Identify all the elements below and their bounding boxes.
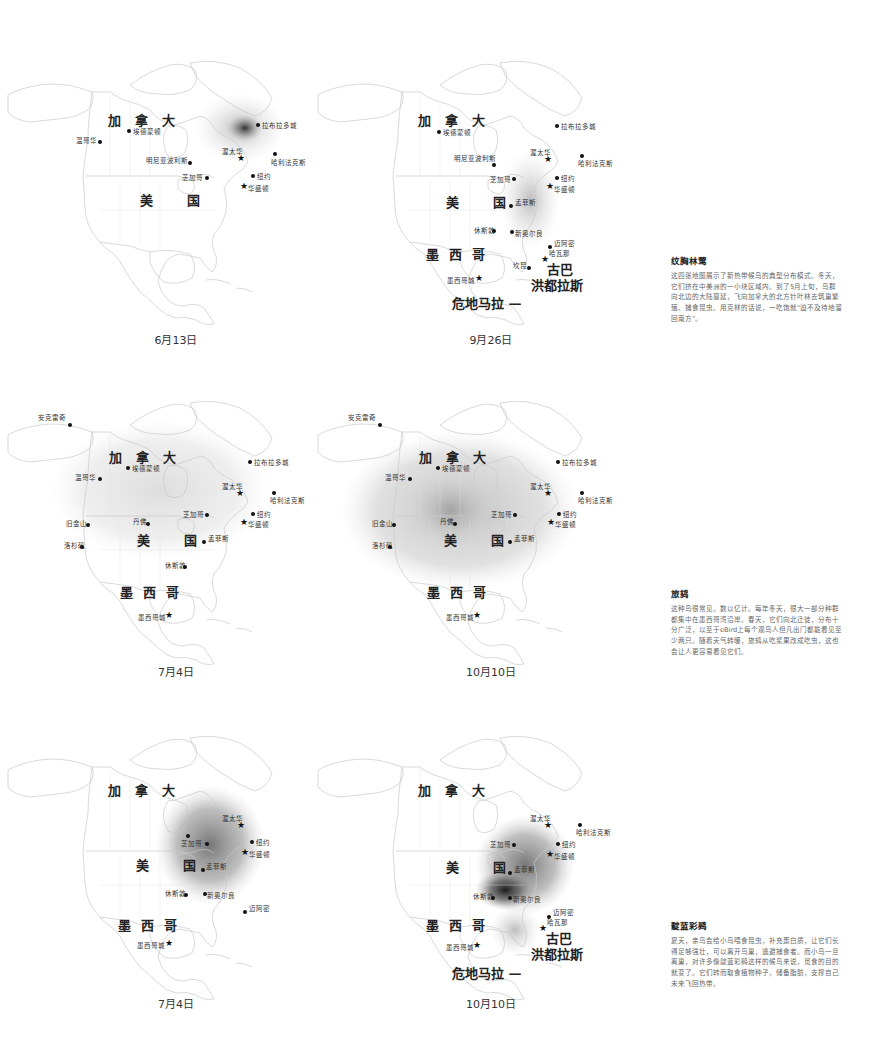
city-dot-icon xyxy=(68,423,72,427)
panel-title: 靛蓝彩鹀 xyxy=(671,919,843,931)
date-label: 7月4日 xyxy=(116,663,236,679)
capital-star-icon: ★ xyxy=(546,850,554,859)
city-memphis: 孟菲斯 xyxy=(514,535,535,543)
label-canada: 加拿大 xyxy=(418,110,499,129)
city-dot-icon xyxy=(555,176,559,180)
city-chicago: 芝加哥 xyxy=(490,176,511,184)
city-dot-icon xyxy=(202,540,206,544)
city-washington: 华盛顿 xyxy=(248,185,269,193)
date-label: 6月13日 xyxy=(116,331,236,347)
label-canada: 加拿大 xyxy=(418,780,499,799)
city-miami: 迈阿密 xyxy=(554,240,575,248)
panel-text: 这四张地图展示了新热带候鸟的典型分布模式。冬天，它们挤在中美洲的一小块区域内。到… xyxy=(671,271,843,325)
label-cuba: 古巴 xyxy=(547,262,573,277)
city-dot-icon xyxy=(183,565,187,569)
capital-star-icon: ★ xyxy=(475,274,483,283)
panel-warbler: 纹胸林莺 这四张地图展示了新热带候鸟的典型分布模式。冬天，它们挤在中美洲的一小块… xyxy=(671,254,843,325)
city-dot-icon xyxy=(146,522,150,526)
city-neworleans: 新奥尔良 xyxy=(515,230,543,238)
city-dot-icon xyxy=(127,129,131,133)
city-mexicocity: 墨西哥城 xyxy=(446,944,474,952)
capital-star-icon: ★ xyxy=(240,182,248,191)
city-minneapolis: 明尼亚波利斯 xyxy=(454,155,496,163)
capital-star-icon: ★ xyxy=(544,489,552,498)
city-chicago: 芝加哥 xyxy=(181,840,202,848)
city-dot-icon xyxy=(437,130,441,134)
city-dot-icon xyxy=(186,834,190,838)
capital-star-icon: ★ xyxy=(237,154,245,163)
city-dot-icon xyxy=(556,842,560,846)
capital-star-icon: ★ xyxy=(237,821,245,830)
map-robin-jul4: 安克雷奇 加拿大 拉布拉多城 埃德蒙顿 温哥华 渥太华 ★ 哈利法克斯 芝加哥 … xyxy=(0,370,300,670)
city-dot-icon xyxy=(436,466,440,470)
city-dot-icon xyxy=(205,842,209,846)
city-dot-icon xyxy=(388,545,392,549)
city-dot-icon xyxy=(243,910,247,914)
city-dot-icon xyxy=(184,893,188,897)
city-dot-icon xyxy=(508,871,512,875)
city-labrador: 拉布拉多城 xyxy=(262,122,297,130)
city-anchorage: 安克雷奇 xyxy=(38,414,66,422)
label-canada: 加拿大 xyxy=(419,447,500,466)
map-bunting-oct10: 加拿大 渥太华 ★ 哈利法克斯 芝加哥 纽约 ★ 华盛顿 美国 孟菲斯 休斯敦 … xyxy=(310,705,610,1005)
label-canada: 加拿大 xyxy=(109,447,190,466)
city-mexicocity: 墨西哥城 xyxy=(137,942,165,950)
city-dot-icon xyxy=(512,177,516,181)
city-miami: 迈阿密 xyxy=(249,905,270,913)
city-halifax: 哈利法克斯 xyxy=(578,160,613,168)
label-canada: 加拿大 xyxy=(108,780,189,799)
city-denver: 丹佛 xyxy=(440,518,454,526)
city-dot-icon xyxy=(126,466,130,470)
capital-star-icon: ★ xyxy=(546,182,554,191)
city-dot-icon xyxy=(492,163,496,167)
city-newyork: 纽约 xyxy=(562,841,576,849)
city-dot-icon xyxy=(508,540,512,544)
city-chicago: 芝加哥 xyxy=(491,511,512,519)
city-dot-icon xyxy=(392,523,396,527)
city-havana: 哈瓦那 xyxy=(547,919,568,927)
city-dot-icon xyxy=(555,124,559,128)
city-vancouver: 温哥华 xyxy=(76,137,97,145)
city-newyork: 纽约 xyxy=(256,839,270,847)
city-labrador: 拉布拉多城 xyxy=(561,123,596,131)
capital-star-icon: ★ xyxy=(473,611,481,620)
city-dot-icon xyxy=(188,161,192,165)
city-sanfrancisco: 旧金山 xyxy=(372,520,393,528)
city-vancouver: 温哥华 xyxy=(75,474,96,482)
city-dot-icon xyxy=(86,523,90,527)
city-chicago: 芝加哥 xyxy=(182,174,203,182)
city-neworleans: 新奥尔良 xyxy=(513,896,541,904)
city-miami: 迈阿密 xyxy=(553,909,574,917)
label-canada: 加拿大 xyxy=(108,110,189,129)
panel-text: 这种鸟很常见，数以亿计。每年冬天，很大一部分种群都集中在墨西哥湾沿岸。春天，它们… xyxy=(671,604,843,658)
city-dot-icon xyxy=(378,423,382,427)
map-outline xyxy=(0,30,300,330)
city-dot-icon xyxy=(557,512,561,516)
city-dot-icon xyxy=(510,230,514,234)
city-edmonton: 埃德蒙顿 xyxy=(132,465,160,473)
label-cuba: 古巴 xyxy=(546,931,572,946)
city-dot-icon xyxy=(80,545,84,549)
capital-star-icon: ★ xyxy=(165,611,173,620)
city-dot-icon xyxy=(513,513,517,517)
label-honduras: 洪都拉斯 xyxy=(531,278,583,293)
panel-bunting: 靛蓝彩鹀 夏天，亲鸟会给小鸟喂食昆虫，补充蛋白质，让它们长得足够强壮，可以离开鸟… xyxy=(671,919,843,990)
panel-title: 纹胸林莺 xyxy=(671,254,843,266)
capital-star-icon: ★ xyxy=(236,489,244,498)
label-usa: 美国 xyxy=(140,190,234,209)
city-labrador: 拉布拉多城 xyxy=(254,459,289,467)
city-dot-icon xyxy=(98,477,102,481)
city-dot-icon xyxy=(205,176,209,180)
panel-text: 夏天，亲鸟会给小鸟喂食昆虫，补充蛋白质，让它们长得足够强壮，可以离开鸟巢，逃避捕… xyxy=(671,936,843,990)
label-mexico: 墨西哥 xyxy=(426,244,495,263)
map-bunting-jul4: 加拿大 渥太华 ★ 芝加哥 纽约 ★ 华盛顿 美国 孟菲斯 休斯敦 新奥尔良 迈… xyxy=(0,705,300,1005)
city-edmonton: 埃德蒙顿 xyxy=(442,465,470,473)
city-dot-icon xyxy=(273,152,277,156)
capital-star-icon: ★ xyxy=(240,518,248,527)
city-dot-icon xyxy=(272,491,276,495)
city-mexicocity: 墨西哥城 xyxy=(138,614,166,622)
label-mexico: 墨西哥 xyxy=(120,582,189,601)
city-dot-icon xyxy=(201,868,205,872)
capital-star-icon: ★ xyxy=(241,848,249,857)
city-dot-icon xyxy=(492,229,496,233)
